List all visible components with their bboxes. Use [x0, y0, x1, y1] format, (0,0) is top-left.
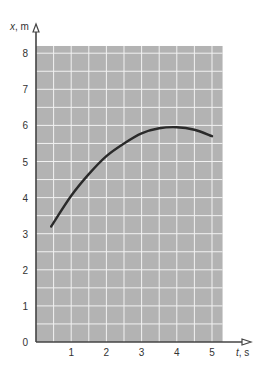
y-tick-label: 1 — [22, 301, 28, 312]
y-tick-label: 8 — [22, 48, 28, 59]
x-tick-label: 1 — [68, 347, 74, 358]
y-tick-label: 3 — [22, 229, 28, 240]
x-tick-label: 3 — [139, 347, 145, 358]
y-tick-label: 4 — [22, 193, 28, 204]
chart: 01234567812345x, mt, s — [0, 0, 268, 384]
y-tick-label: 0 — [22, 337, 28, 348]
x-axis-label: t, s — [236, 347, 249, 358]
y-tick-label: 2 — [22, 265, 28, 276]
x-tick-label: 2 — [104, 347, 110, 358]
y-axis-label: x, m — [9, 21, 29, 32]
x-tick-label: 5 — [209, 347, 215, 358]
x-tick-label: 4 — [174, 347, 180, 358]
y-tick-label: 6 — [22, 120, 28, 131]
y-tick-label: 7 — [22, 84, 28, 95]
plot-grid — [36, 46, 223, 342]
y-tick-label: 5 — [22, 157, 28, 168]
